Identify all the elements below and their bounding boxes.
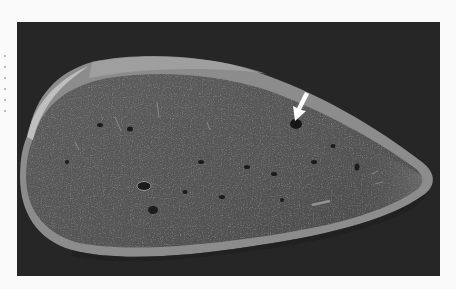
margin-mark bbox=[4, 77, 6, 79]
margin-mark bbox=[4, 55, 6, 57]
page-margin-marks bbox=[2, 55, 8, 130]
margin-mark bbox=[4, 88, 6, 90]
margin-mark bbox=[4, 66, 6, 68]
margin-mark bbox=[4, 110, 6, 112]
specimen-illustration bbox=[17, 22, 440, 276]
focal-lesion bbox=[290, 119, 302, 129]
margin-mark bbox=[4, 99, 6, 101]
specimen-photograph bbox=[17, 22, 440, 276]
